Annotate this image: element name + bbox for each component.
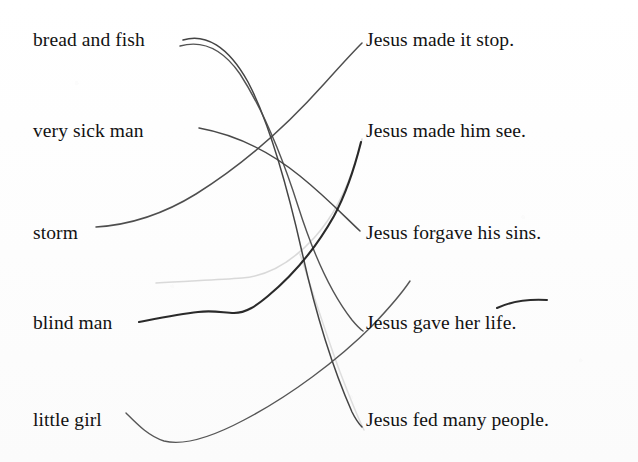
- right-item-fed-many-people[interactable]: Jesus fed many people.: [366, 410, 549, 430]
- paper-texture: [0, 0, 638, 462]
- left-item-bread-and-fish[interactable]: bread and fish: [33, 30, 145, 50]
- link-blind-man-to-made-him-see: [139, 142, 361, 322]
- left-item-storm[interactable]: storm: [33, 223, 78, 243]
- right-item-gave-her-life[interactable]: Jesus gave her life.: [366, 313, 516, 333]
- right-item-made-him-see[interactable]: Jesus made him see.: [366, 121, 526, 141]
- left-item-very-sick-man[interactable]: very sick man: [33, 121, 144, 141]
- link-bread-to-fed: [183, 38, 362, 427]
- overline-her: [497, 300, 547, 308]
- worksheet-page: bread and fish very sick man storm blind…: [0, 0, 638, 462]
- link-very-sick-to-forgave: [199, 128, 360, 231]
- erased-line-lower-right: [300, 254, 364, 430]
- right-item-made-it-stop[interactable]: Jesus made it stop.: [366, 30, 514, 50]
- right-item-forgave-his-sins[interactable]: Jesus forgave his sins.: [366, 223, 541, 243]
- connector-line-layer: [0, 0, 638, 462]
- left-item-blind-man[interactable]: blind man: [33, 313, 112, 333]
- erased-line-blind-man: [156, 139, 362, 283]
- link-bread-to-gave: [180, 44, 363, 331]
- left-item-little-girl[interactable]: little girl: [33, 410, 102, 430]
